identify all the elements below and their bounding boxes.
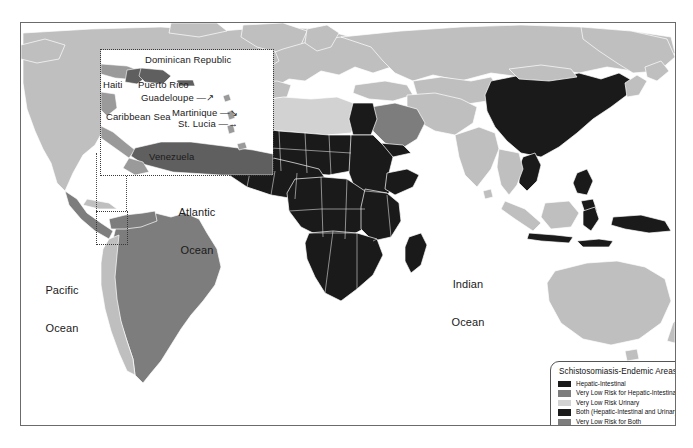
legend-label-very-low-risk-both-line1: Very Low Risk for Both <box>576 418 641 425</box>
legend-label-both: Both (Hepatic-Intestinal and Urinary) <box>576 408 676 416</box>
caribbean-inset-canvas <box>101 50 273 175</box>
legend-label-very-low-risk-urinary: Very Low Risk Urinary <box>576 399 639 407</box>
caribbean-inset-svg <box>101 50 273 175</box>
map-legend: Schistosomiasis-Endemic Areas Hepatic-In… <box>550 361 676 426</box>
world-map-frame: Atlantic Ocean Pacific Ocean Indian Ocea… <box>20 22 676 426</box>
legend-row-both: Both (Hepatic-Intestinal and Urinary) <box>558 408 676 416</box>
legend-label-very-low-risk-both: Very Low Risk for Both (Hepatic-Intestin… <box>576 418 665 427</box>
legend-swatch-hepatic-intestinal <box>558 381 571 388</box>
legend-swatch-very-low-risk-hepatic-intestinal <box>558 390 571 397</box>
africa-egypt <box>349 103 377 135</box>
tasmania <box>625 349 639 361</box>
legend-title: Schistosomiasis-Endemic Areas <box>559 367 676 376</box>
legend-swatch-both <box>558 409 571 416</box>
legend-row-very-low-risk-both: Very Low Risk for Both (Hepatic-Intestin… <box>558 418 676 427</box>
legend-row-very-low-risk-urinary: Very Low Risk Urinary <box>558 399 676 407</box>
sri-lanka <box>483 189 493 199</box>
legend-label-very-low-risk-both-line2: (Hepatic-Intestinal and Urinary) <box>576 426 665 427</box>
legend-swatch-very-low-risk-urinary <box>558 400 571 407</box>
inset-source-region-box <box>96 211 128 245</box>
legend-row-hepatic-intestinal: Hepatic-Intestinal <box>558 380 676 388</box>
inset-puerto-rico <box>177 80 195 86</box>
legend-swatch-very-low-risk-both <box>558 419 571 426</box>
legend-row-very-low-risk-hepatic-intestinal: Very Low Risk for Hepatic-Intestinal <box>558 389 676 397</box>
map-page: Atlantic Ocean Pacific Ocean Indian Ocea… <box>0 0 693 448</box>
caribbean-inset-box <box>100 49 274 176</box>
lesser-sunda <box>577 239 613 247</box>
legend-label-very-low-risk-hepatic-intestinal: Very Low Risk for Hepatic-Intestinal <box>576 389 676 397</box>
inset-leader-left <box>96 153 97 211</box>
legend-label-hepatic-intestinal: Hepatic-Intestinal <box>576 380 626 388</box>
